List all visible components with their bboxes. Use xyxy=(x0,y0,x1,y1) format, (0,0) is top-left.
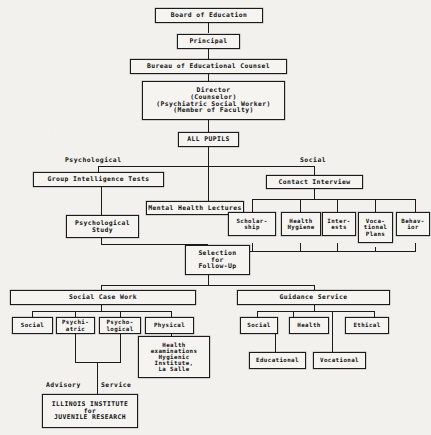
node-vocational-plans[interactable]: Voca- tional Plans xyxy=(358,212,393,243)
connector-behavior-down xyxy=(415,243,416,251)
connector-board-principal xyxy=(208,22,209,33)
node-behavior[interactable]: Behav- ior xyxy=(396,212,430,236)
connector-hygiene-down xyxy=(300,243,301,251)
connector-selection-bus xyxy=(101,285,314,286)
connector-to-vocational-plans xyxy=(375,199,376,212)
connector-right-collector xyxy=(250,251,416,252)
connector-contact-stem xyxy=(314,188,315,199)
node-board-of-education[interactable]: Board of Education xyxy=(155,8,263,23)
label-advisory: Advisory xyxy=(45,381,82,389)
node-social-case-work[interactable]: Social Case Work xyxy=(10,290,196,305)
node-guidance-service[interactable]: Guidance Service xyxy=(237,290,390,305)
connector-scw-bus xyxy=(32,311,171,312)
connector-to-contact-interview xyxy=(314,166,315,175)
label-psychological: Psychological xyxy=(64,156,123,164)
node-bureau-of-educational-counsel[interactable]: Bureau of Educational Counsel xyxy=(130,59,287,74)
node-psychological-study[interactable]: Psychological Study xyxy=(66,215,139,238)
connector-advisory-stem xyxy=(97,362,98,394)
node-gs-social[interactable]: Social xyxy=(240,317,278,334)
label-service: Service xyxy=(100,381,132,389)
node-principal[interactable]: Principal xyxy=(177,34,240,49)
node-scw-physical[interactable]: Physical xyxy=(145,317,194,334)
node-gs-ethical[interactable]: Ethical xyxy=(345,317,389,334)
node-scw-psychological[interactable]: Psycho- logical xyxy=(99,317,141,334)
connector-advisory-bus xyxy=(75,362,121,363)
connector-to-scholarship xyxy=(252,199,253,212)
node-scw-psychiatric[interactable]: Psychi- atric xyxy=(56,317,95,334)
node-health-examinations[interactable]: Health examinations Hygienic Institute, … xyxy=(138,336,210,378)
organization-chart: Board of Education Principal Bureau of E… xyxy=(0,0,431,435)
connector-gs-educational xyxy=(275,334,276,352)
node-director[interactable]: Director (Counselor) (Psychiatric Social… xyxy=(142,81,285,120)
connector-to-mental-health-lectures xyxy=(208,166,209,201)
node-gs-health[interactable]: Health xyxy=(289,317,329,334)
connector-psychological-down xyxy=(120,334,121,362)
connector-allpupils-bus xyxy=(98,166,314,167)
node-scholarship[interactable]: Scholar- ship xyxy=(228,212,276,236)
connector-psychiatric-down xyxy=(75,334,76,362)
node-group-intelligence-tests[interactable]: Group Intelligence Tests xyxy=(33,172,164,187)
node-illinois-institute-for-juvenile-research[interactable]: ILLINOIS INSTITUTE for JUVENILE RESEARCH xyxy=(42,394,138,428)
connector-selection-stem xyxy=(208,275,209,285)
connector-principal-bureau xyxy=(208,48,209,59)
node-health-hygiene[interactable]: Health Hygiene xyxy=(281,212,321,236)
connector-scholarship-down xyxy=(252,243,253,251)
node-gs-educational[interactable]: Educational xyxy=(249,352,306,369)
connector-director-allpupils xyxy=(208,120,209,132)
connector-allpupils-stem xyxy=(208,147,209,166)
connector-to-interests xyxy=(337,199,338,212)
node-gs-vocational[interactable]: Vocational xyxy=(313,352,366,369)
connector-to-health-hygiene xyxy=(300,199,301,212)
connector-contact-bus xyxy=(252,199,415,200)
connector-interests-down xyxy=(337,243,338,251)
connector-to-behavior xyxy=(415,199,416,212)
node-contact-interview[interactable]: Contact Interview xyxy=(266,175,363,189)
node-interests[interactable]: Inter- ests xyxy=(322,212,356,236)
node-scw-social[interactable]: Social xyxy=(12,317,53,334)
connector-gs-bus xyxy=(257,311,374,312)
node-selection-for-follow-up[interactable]: Selection for Follow-Up xyxy=(185,245,250,275)
connector-tests-psychstudy xyxy=(101,186,102,215)
connector-gs-vocational xyxy=(332,311,333,352)
node-all-pupils[interactable]: ALL PUPILS xyxy=(178,132,239,147)
label-social: Social xyxy=(299,156,327,164)
